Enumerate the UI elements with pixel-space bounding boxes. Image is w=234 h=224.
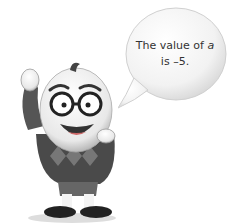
egg-character-illustration bbox=[10, 56, 140, 224]
bubble-line-2: is –5. bbox=[161, 55, 189, 68]
variable-a: a bbox=[207, 39, 214, 52]
bubble-line-1: The value of bbox=[136, 39, 208, 52]
speech-bubble-text: The value of a is –5. bbox=[128, 38, 222, 70]
